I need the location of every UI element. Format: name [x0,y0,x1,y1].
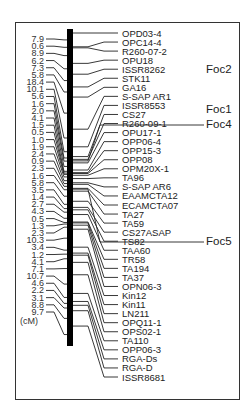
locus-label-foc5: Foc5 [206,235,232,247]
locus-label-foc1: Foc1 [206,103,232,115]
marker-label: ISSR8681 [122,372,165,383]
linkage-map: 7.90.68.96.27.35.818.410.15.61.62.04.11.… [0,0,250,414]
locus-label-foc4: Foc4 [206,118,232,130]
unit-label: (cM) [20,316,38,326]
locus-label-foc2: Foc2 [206,63,232,75]
chromosome-bar [67,29,73,346]
